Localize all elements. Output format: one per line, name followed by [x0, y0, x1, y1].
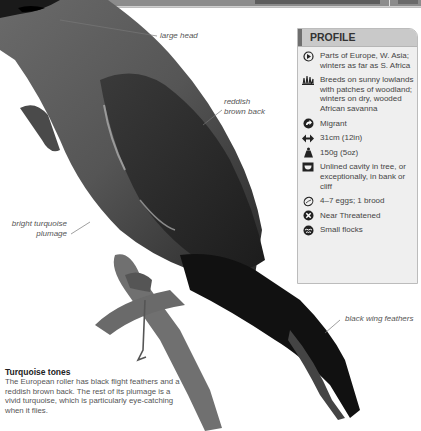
profile-item-habitat: Breeds on sunny lowlands with patches of… — [298, 75, 417, 113]
globe-range-icon — [302, 51, 314, 61]
annotation-text-line: plumage — [0, 229, 67, 239]
profile-item-length: 31cm (12in) — [298, 133, 417, 143]
habitat-grass-icon — [302, 75, 314, 85]
profile-box: PROFILE Parts of Europe, W. Asia; winter… — [297, 28, 418, 284]
profile-item-text: Parts of Europe, W. Asia; winters as far… — [320, 51, 410, 70]
profile-item-range: Parts of Europe, W. Asia; winters as far… — [298, 51, 417, 70]
profile-item-weight: 150g (5oz) — [298, 148, 417, 158]
profile-item-text: Unlined cavity in tree, or exceptionally… — [320, 162, 406, 190]
egg-icon — [302, 196, 314, 206]
annotation-text: large head — [160, 31, 198, 40]
nest-icon — [302, 162, 314, 172]
profile-item-text: Near Threatened — [320, 211, 380, 220]
weight-icon — [302, 148, 314, 158]
profile-item-migration: Migrant — [298, 119, 417, 129]
annotation-text-line: reddish — [224, 97, 265, 107]
profile-list: Parts of Europe, W. Asia; winters as far… — [298, 47, 417, 235]
annotation-text: black wing feathers — [345, 314, 413, 323]
profile-item-status: Near Threatened — [298, 211, 417, 221]
caption-body: The European roller has black flight fea… — [5, 377, 185, 415]
migration-arrow-icon — [302, 119, 314, 129]
profile-item-nest: Unlined cavity in tree, or exceptionally… — [298, 162, 417, 191]
profile-item-text: 4–7 eggs; 1 brood — [320, 196, 385, 205]
annotation-text-line: brown back — [224, 107, 265, 117]
profile-item-text: Migrant — [320, 119, 347, 128]
profile-item-text: 150g (5oz) — [320, 148, 358, 157]
annotation-large-head: large head — [160, 31, 198, 41]
annotation-text-line: bright turquoise — [0, 219, 67, 229]
profile-item-flock: Small flocks — [298, 225, 417, 235]
profile-accent-stripe — [298, 29, 302, 46]
flock-icon — [302, 225, 314, 235]
profile-item-eggs: 4–7 eggs; 1 brood — [298, 196, 417, 206]
profile-title: PROFILE — [298, 29, 417, 47]
caption-title: Turquoise tones — [5, 367, 185, 377]
annotation-bright-turquoise-plumage: bright turquoise plumage — [0, 219, 67, 238]
caption-note: Turquoise tones The European roller has … — [5, 367, 185, 415]
annotation-reddish-brown-back: reddish brown back — [224, 97, 265, 116]
conservation-status-icon — [302, 211, 314, 221]
profile-item-text: Small flocks — [320, 225, 363, 234]
profile-item-text: Breeds on sunny lowlands with patches of… — [320, 75, 413, 113]
annotation-black-wing-feathers: black wing feathers — [345, 314, 413, 324]
profile-item-text: 31cm (12in) — [320, 133, 362, 142]
length-arrows-icon — [302, 133, 314, 143]
